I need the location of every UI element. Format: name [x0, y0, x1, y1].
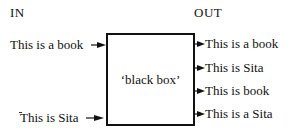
- out-header: OUT: [194, 6, 222, 20]
- output-label: This is Sita: [205, 61, 264, 75]
- input-label: This is Sita: [20, 111, 79, 125]
- arrow-right-icon: [91, 41, 106, 49]
- arrow-right-icon: [193, 64, 205, 72]
- output-label: This is book: [205, 84, 269, 98]
- in-header: IN: [10, 6, 25, 20]
- arrow-right-icon: [193, 40, 205, 48]
- arrow-right-icon: [86, 114, 104, 122]
- output-label: This is a Sita: [205, 107, 273, 121]
- arrow-right-icon: [193, 87, 205, 95]
- black-box: ‘black box’: [106, 33, 195, 126]
- input-label: This is a book: [10, 38, 83, 52]
- output-label: This is a book: [205, 37, 278, 51]
- arrow-right-icon: [193, 110, 205, 118]
- black-box-label: ‘black box’: [108, 73, 193, 87]
